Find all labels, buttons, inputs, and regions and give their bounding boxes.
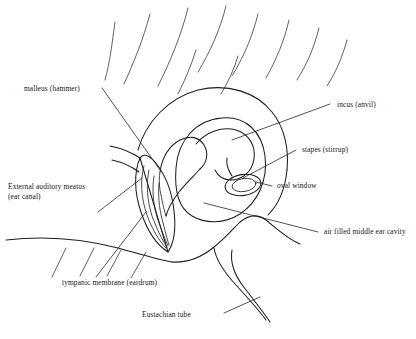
tympanic-membrane-shape [136,155,175,252]
label-ear-canal-line-1: External auditory meatus [8,182,85,191]
middle-ear-cavity [176,118,266,222]
label-tympanic-membrane: tympanic membrane (eardrum) [62,278,157,288]
cranial-outline [138,88,287,215]
label-ear-canal-line-2: (ear canal) [8,192,41,201]
label-eustachian-tube: Eustachian tube [142,310,191,320]
leader-stapes [243,150,296,178]
label-stapes: stapes (stirrup) [302,145,348,155]
leader-incus [232,104,330,140]
stapes-footplate-outline [224,172,263,198]
label-malleus: malleus (hammer) [24,84,80,94]
incus-bone [196,129,254,180]
label-air-filled-middle-ear-cavity: air filled middle ear cavity [324,227,406,237]
label-oval-window: oval window [277,181,317,191]
label-incus: incus (anvil) [337,100,376,110]
leader-malleus [102,88,160,170]
eustachian-tube-shape [214,248,270,322]
upper-bone-hatching [105,6,347,94]
leader-eustachian-tube [224,297,260,313]
ear-diagram-canvas [0,0,416,339]
leader-ear-canal [98,178,142,212]
malleus-bone [159,137,207,216]
lower-tissue-contour [6,216,300,262]
label-external-auditory-meatus: External auditory meatus(ear canal) [8,182,85,201]
leader-oval-window [256,182,272,186]
external-auditory-canal [110,146,140,172]
ear-anatomy-diagram: malleus (hammer) incus (anvil) stapes (s… [0,0,416,339]
leader-air-cavity [204,203,318,232]
